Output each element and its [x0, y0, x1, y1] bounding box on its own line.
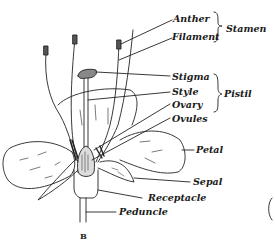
label-filament: Filament: [172, 32, 220, 42]
petal-left: [3, 142, 75, 189]
group-label-pistil: Pistil: [224, 89, 252, 99]
petal-back: [58, 89, 137, 125]
ovary: [77, 146, 94, 177]
stigma: [78, 69, 97, 78]
stamen-2: [71, 38, 78, 162]
peduncle: [80, 198, 86, 222]
sepal-right: [98, 161, 134, 182]
leader-anther: [121, 20, 172, 44]
flower-illustration: [0, 0, 275, 241]
group-label-stamen: Stamen: [226, 24, 266, 34]
label-style: Style: [172, 87, 198, 97]
label-petal: Petal: [196, 145, 223, 155]
label-peduncle: Peduncle: [119, 207, 168, 217]
label-ovary: Ovary: [172, 100, 202, 110]
figure-label: B: [80, 231, 87, 241]
style: [84, 78, 88, 147]
label-stigma: Stigma: [172, 72, 210, 82]
label-anther: Anther: [173, 14, 210, 24]
stamen-3: [96, 42, 119, 162]
leader-stigma: [96, 72, 170, 76]
sepal-left: [38, 160, 78, 200]
leader-sepal: [134, 178, 190, 182]
label-receptacle: Receptacle: [148, 193, 206, 203]
leader-style: [88, 92, 170, 100]
label-sepal: Sepal: [193, 177, 222, 187]
leader-receptacle: [98, 190, 142, 198]
flower-diagram: Anther Filament Stamen Stigma Style Ovar…: [0, 0, 275, 241]
pistil-brace: [214, 74, 222, 112]
leader-ovary: [94, 104, 170, 150]
label-ovules: Ovules: [172, 114, 208, 124]
leader-ovules: [92, 118, 170, 160]
